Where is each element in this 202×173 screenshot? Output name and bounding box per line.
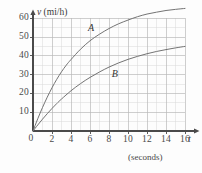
x-tick-label: 10 [120,134,136,144]
x-axis-arrowhead [194,128,200,133]
y-tick-label: 60 [6,12,29,22]
x-tick-label: 16 [177,134,193,144]
x-tick-label: 12 [139,134,155,144]
y-tick-label: 30 [6,69,29,79]
axis-tick-marks [30,18,185,134]
y-axis-units: (mi/h) [44,7,68,17]
y-tick-label: 10 [6,106,29,116]
x-tick-label: 14 [158,134,174,144]
major-gridlines [33,18,185,131]
y-tick-label: 20 [6,87,29,97]
x-axis-unit-caption: (seconds) [128,152,163,162]
y-axis-label: v (mi/h) [37,7,67,17]
curve-label-B: B [112,68,118,79]
x-tick-label: 8 [101,134,117,144]
x-tick-label: 2 [44,134,60,144]
y-axis-arrowhead [30,10,35,16]
x-tick-label: 4 [63,134,79,144]
curve-label-A: A [88,22,94,33]
origin-tick-label: 0 [26,133,36,143]
plot-canvas [0,0,202,173]
y-tick-label: 40 [6,50,29,60]
x-tick-label: 6 [82,134,98,144]
velocity-time-graph-figure: v (mi/h) t (seconds) 0 102030405060 2468… [0,0,202,173]
y-tick-label: 50 [6,31,29,41]
